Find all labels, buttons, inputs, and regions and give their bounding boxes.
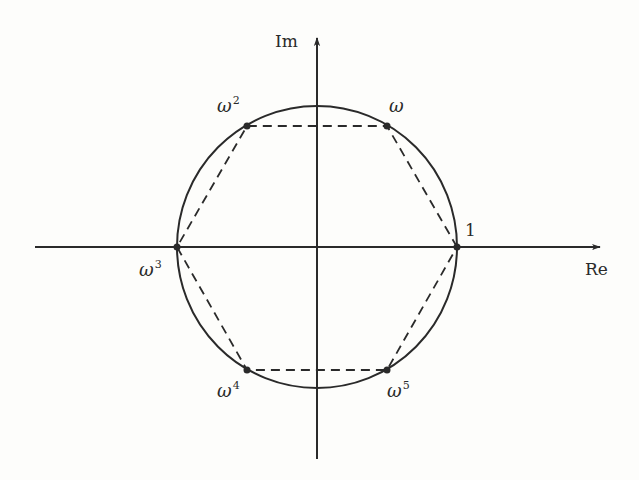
root-point-omega5: [384, 367, 391, 374]
root-label-omega3: ω3: [139, 258, 162, 280]
root-label-omega2-base: ω: [217, 95, 232, 116]
root-label-omega5-base: ω: [387, 380, 402, 401]
root-point-1: [454, 244, 461, 251]
root-label-omega3-base: ω: [139, 259, 154, 280]
root-label-omega2-exp: 2: [233, 94, 240, 107]
root-label-omega4-base: ω: [217, 380, 232, 401]
root-label-omega5-exp: 5: [403, 379, 410, 392]
root-label-omega5: ω5: [387, 379, 410, 401]
root-label-1: 1: [465, 220, 476, 240]
root-point-omega4: [244, 367, 251, 374]
imaginary-axis-label: Im: [275, 31, 298, 51]
real-axis-label: Re: [585, 259, 608, 279]
root-label-omega-base: ω: [389, 95, 404, 116]
root-label-omega4: ω4: [217, 379, 240, 401]
root-point-omega3: [174, 244, 181, 251]
root-label-omega2: ω2: [217, 94, 240, 116]
root-point-omega: [384, 123, 391, 130]
root-point-omega2: [244, 123, 251, 130]
root-label-omega3-exp: 3: [155, 258, 162, 271]
complex-plane-diagram: [0, 0, 639, 480]
root-label-1-base: 1: [465, 220, 476, 240]
root-label-omega: ω: [389, 95, 404, 116]
root-label-omega4-exp: 4: [233, 379, 240, 392]
